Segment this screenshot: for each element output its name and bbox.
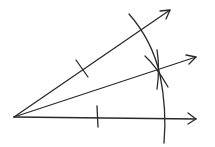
- lower-ray: [14, 113, 196, 124]
- bisector-ray: [14, 55, 196, 117]
- lower-ray-tick: [97, 106, 98, 127]
- main-compass-arc: [129, 14, 165, 143]
- upper-ray: [14, 10, 170, 117]
- upper-ray-tick: [76, 60, 88, 77]
- angle-bisector-diagram: [0, 0, 215, 147]
